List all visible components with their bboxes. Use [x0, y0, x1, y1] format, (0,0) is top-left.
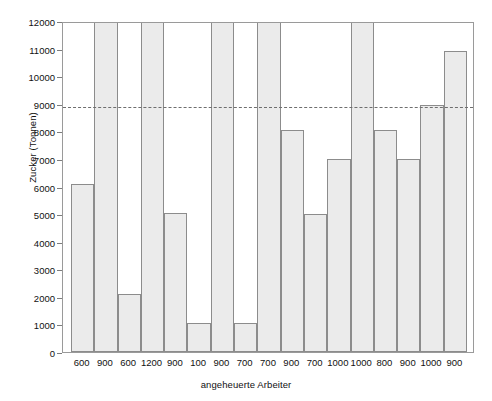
bar: [444, 51, 467, 352]
bar: [164, 213, 187, 352]
bar: [211, 23, 234, 352]
x-tick-label: 800: [377, 357, 393, 368]
y-tick-label: 8000: [34, 127, 55, 138]
x-tick-label: 900: [400, 357, 416, 368]
y-tick-label: 4000: [34, 237, 55, 248]
bar: [281, 130, 304, 352]
bar: [374, 130, 397, 352]
bar: [257, 23, 280, 352]
y-tick-mark: [57, 353, 62, 354]
plot-area: [62, 22, 474, 353]
y-tick-label: 1000: [34, 320, 55, 331]
x-tick-label: 600: [120, 357, 136, 368]
y-tick-label: 6000: [34, 182, 55, 193]
y-tick-label: 2000: [34, 292, 55, 303]
y-tick-label: 9000: [34, 99, 55, 110]
x-tick-label: 100: [190, 357, 206, 368]
y-tick-label: 7000: [34, 154, 55, 165]
bar: [141, 23, 164, 352]
x-tick-label: 700: [307, 357, 323, 368]
y-tick-label: 3000: [34, 265, 55, 276]
bar: [420, 105, 443, 352]
x-tick-label: 1000: [327, 357, 348, 368]
y-tick-label: 11000: [29, 44, 55, 55]
x-tick-label: 900: [283, 357, 299, 368]
x-tick-label: 700: [260, 357, 276, 368]
bar: [118, 294, 141, 352]
x-tick-label: 1000: [351, 357, 372, 368]
x-tick-label: 900: [167, 357, 183, 368]
bar: [304, 214, 327, 352]
mean-reference-line: [63, 107, 473, 108]
y-tick-label: 10000: [29, 72, 55, 83]
x-tick-label: 900: [213, 357, 229, 368]
bar-chart: Zucker (Tonnen) 010002000300040005000600…: [0, 0, 492, 401]
bar: [94, 23, 117, 352]
bar: [327, 159, 350, 352]
x-tick-label: 1000: [420, 357, 441, 368]
y-tick-label: 5000: [34, 210, 55, 221]
bar: [187, 323, 210, 352]
bar: [351, 23, 374, 352]
x-axis-title: angeheuerte Arbeiter: [0, 379, 492, 390]
x-tick-label: 1200: [141, 357, 162, 368]
x-tick-label: 900: [97, 357, 113, 368]
bar: [397, 159, 420, 352]
bar: [71, 184, 94, 352]
y-tick-label: 0: [50, 348, 55, 359]
x-tick-label: 600: [74, 357, 90, 368]
x-tick-label: 700: [237, 357, 253, 368]
bar: [234, 323, 257, 352]
plot-inner: [63, 23, 473, 352]
x-tick-label: 900: [446, 357, 462, 368]
y-tick-label: 12000: [29, 17, 55, 28]
